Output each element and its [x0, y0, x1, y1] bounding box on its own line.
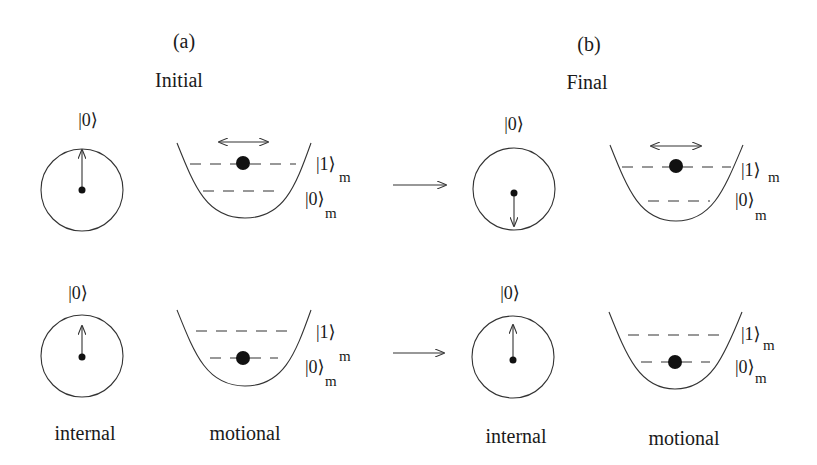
final-internal-bottom: |0⟩: [472, 283, 554, 398]
ket-0-label: |0⟩: [735, 190, 755, 210]
motional-column-label: motional: [209, 422, 281, 444]
ket-0-subscript: m: [325, 205, 337, 221]
initial-internal-bottom: |0⟩: [41, 283, 123, 397]
panel-b-title: Final: [566, 71, 608, 93]
initial-motional-top: |1⟩ m |0⟩ m: [177, 142, 351, 221]
harmonic-well: [609, 312, 742, 389]
ion-ball: [236, 156, 250, 170]
ket-1-subscript: m: [768, 169, 780, 185]
harmonic-well: [610, 145, 743, 221]
spin-origin-dot: [79, 187, 86, 194]
ket-0-subscript: m: [755, 370, 767, 386]
final-motional-top: |1⟩ m |0⟩ m: [610, 145, 780, 223]
final-motional-bottom: |1⟩ m |0⟩ m: [609, 312, 775, 389]
ion-ball: [668, 355, 682, 369]
spin-origin-dot: [510, 357, 517, 364]
ket-1-label: |1⟩: [741, 160, 761, 180]
ion-trap-state-diagram: (a) Initial (b) Final |0⟩ |1⟩ m |0⟩ m |0…: [0, 0, 817, 465]
ket-0-label: |0⟩: [735, 357, 755, 377]
internal-column-label: internal: [54, 422, 116, 444]
final-internal-top: |0⟩: [473, 114, 555, 230]
spin-origin-dot: [79, 354, 86, 361]
initial-internal-top: |0⟩: [41, 110, 123, 231]
ket-1-label: |1⟩: [316, 154, 336, 174]
ket-1-label: |1⟩: [316, 322, 336, 342]
panel-a-title: Initial: [155, 69, 203, 91]
ket-0-label: |0⟩: [305, 357, 325, 377]
harmonic-well: [177, 143, 311, 218]
internal-ket-label: |0⟩: [78, 110, 98, 130]
ion-ball: [669, 159, 683, 173]
internal-ket-label: |0⟩: [504, 114, 524, 134]
harmonic-well: [177, 310, 311, 386]
ket-1-label: |1⟩: [741, 324, 761, 344]
motional-column-label: motional: [648, 427, 720, 449]
internal-ket-label: |0⟩: [500, 283, 520, 303]
ion-ball: [236, 351, 250, 365]
ket-0-label: |0⟩: [305, 189, 325, 209]
panel-a-tag: (a): [173, 30, 195, 53]
ket-1-subscript: m: [339, 169, 351, 185]
spin-origin-dot: [511, 190, 518, 197]
initial-motional-bottom: |1⟩ m |0⟩ m: [177, 310, 351, 389]
internal-column-label: internal: [485, 425, 547, 447]
ket-0-subscript: m: [755, 207, 767, 223]
ket-0-subscript: m: [325, 373, 337, 389]
panel-b-tag: (b): [577, 33, 600, 56]
ket-1-subscript: m: [339, 348, 351, 364]
internal-ket-label: |0⟩: [68, 283, 88, 303]
ket-1-subscript: m: [763, 337, 775, 353]
